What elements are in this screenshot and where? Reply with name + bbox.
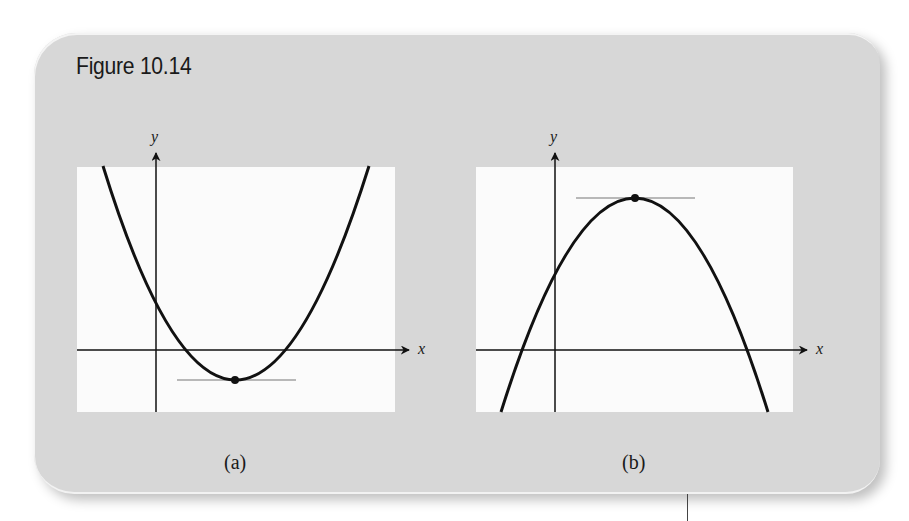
- parabola-b: [501, 198, 768, 412]
- chart-a: [77, 153, 409, 412]
- maximum-point-b: [631, 194, 639, 202]
- page-rule-line: [687, 494, 688, 521]
- y-axis-label-a: y: [151, 128, 158, 146]
- y-axis-label-b: y: [550, 128, 557, 146]
- x-axis-label-b: x: [816, 340, 823, 358]
- caption-b: (b): [622, 451, 645, 474]
- x-axis-label-a: x: [418, 340, 425, 358]
- chart-b: [476, 153, 807, 412]
- caption-a: (a): [224, 451, 246, 474]
- minimum-point-a: [231, 376, 239, 384]
- parabola-a: [103, 166, 369, 380]
- plots-svg: [0, 0, 909, 521]
